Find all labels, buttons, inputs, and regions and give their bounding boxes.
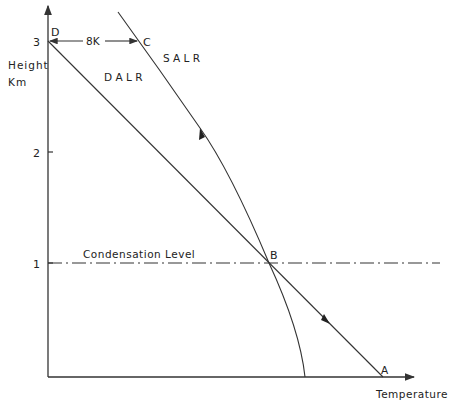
point-a-label: A	[381, 364, 389, 376]
x-axis-label: Temperature	[375, 388, 448, 400]
difference-label: 8K	[86, 35, 101, 47]
y-tick-label-2: 2	[33, 147, 40, 160]
lapse-rate-diagram: 1 2 3 Height Km Temperature Condensation…	[0, 0, 455, 403]
condensation-level-label: Condensation Level	[83, 248, 195, 260]
salr-label: S A L R	[163, 52, 200, 64]
y-tick-label-1: 1	[33, 258, 40, 271]
dalr-line	[48, 41, 383, 377]
salr-curve	[118, 12, 305, 377]
dalr-label: D A L R	[104, 71, 142, 83]
point-c-label: C	[143, 36, 151, 49]
point-b-label: B	[270, 249, 278, 262]
y-tick-label-3: 3	[33, 36, 40, 49]
y-axis-label-km: Km	[8, 76, 27, 88]
y-axis-label-height: Height	[8, 59, 49, 71]
point-d-label: D	[51, 26, 59, 39]
